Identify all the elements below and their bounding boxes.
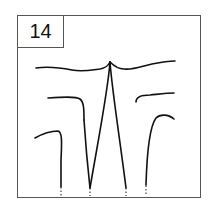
top-curve-left [36, 62, 110, 71]
diagram-curves [0, 0, 218, 218]
middle-curve-left [48, 97, 84, 120]
central-v-right [110, 62, 126, 188]
bottom-left-curve [35, 131, 62, 187]
right-branch [146, 115, 174, 185]
left-branch [84, 120, 90, 188]
central-v-left [90, 62, 110, 188]
top-curve-right [110, 61, 175, 69]
middle-curve-right [136, 93, 174, 102]
